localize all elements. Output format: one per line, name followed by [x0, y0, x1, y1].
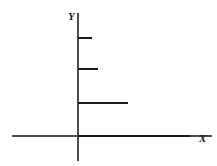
- step-series: [78, 38, 190, 136]
- x-axis-label: X: [198, 132, 207, 144]
- y-axis-label: Y: [68, 10, 76, 22]
- step-function-figure: Y X: [0, 0, 217, 166]
- plot-canvas: Y X: [0, 0, 217, 166]
